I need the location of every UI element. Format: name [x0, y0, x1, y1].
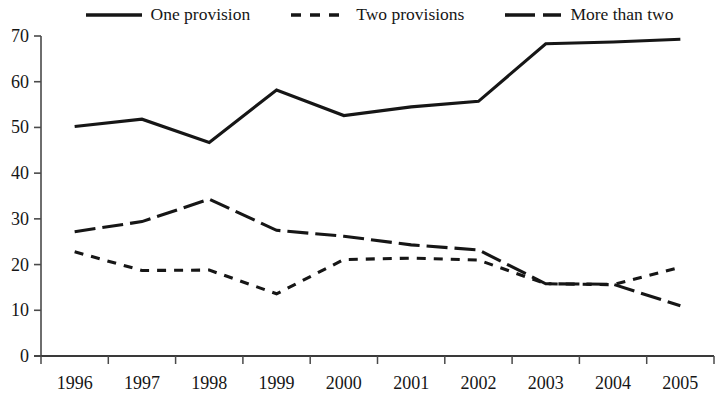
y-axis-tick-label: 0 [0, 347, 29, 365]
x-axis-tick-label: 1997 [108, 374, 175, 392]
x-axis-tick-label: 2002 [445, 374, 512, 392]
y-axis-tick-label: 20 [0, 256, 29, 274]
y-axis-tick-label: 30 [0, 210, 29, 228]
y-axis-tick-label: 40 [0, 164, 29, 182]
series-line [75, 199, 681, 306]
x-axis-tick-label: 1999 [243, 374, 310, 392]
x-axis-tick-label: 2000 [310, 374, 377, 392]
series-line [75, 39, 681, 142]
y-axis-tick-label: 60 [0, 73, 29, 91]
y-axis-tick-label: 70 [0, 27, 29, 45]
x-axis-tick-label: 2001 [378, 374, 445, 392]
series-lines [75, 39, 681, 306]
y-axis-tick-label: 50 [0, 118, 29, 136]
x-axis-tick-label: 2005 [647, 374, 714, 392]
x-axis-tick-label: 2004 [579, 374, 646, 392]
x-axis-tick-label: 1998 [176, 374, 243, 392]
series-line [75, 252, 681, 294]
x-axis-tick-label: 1996 [41, 374, 108, 392]
y-axis-ticks [34, 36, 41, 356]
chart-plot-area [0, 0, 718, 395]
y-axis-tick-label: 10 [0, 301, 29, 319]
chart-container: One provision Two provisions More than t… [0, 0, 718, 395]
x-axis-tick-label: 2003 [512, 374, 579, 392]
axis-lines [34, 36, 714, 356]
x-axis-ticks [41, 356, 714, 364]
